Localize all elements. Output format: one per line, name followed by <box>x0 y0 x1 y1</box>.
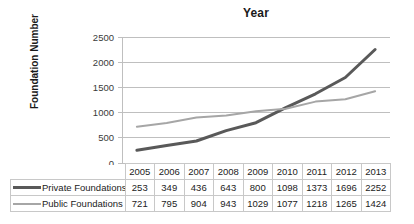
table-corner-cell <box>11 164 126 180</box>
line-chart-plot: 05001000150020002500 <box>0 0 414 165</box>
table-cell: 904 <box>184 196 214 212</box>
legend-label-1: Public Foundations <box>42 198 123 209</box>
column-header: 2010 <box>273 164 303 180</box>
data-table-wrapper: 200520062007200820092010201120122013Priv… <box>10 163 391 212</box>
gridlines <box>118 37 390 163</box>
legend-swatch-1 <box>13 203 41 205</box>
column-header: 2008 <box>214 164 244 180</box>
table-cell: 1218 <box>302 196 332 212</box>
table-cell: 1424 <box>361 196 391 212</box>
column-header: 2009 <box>243 164 273 180</box>
table-header-row: 200520062007200820092010201120122013 <box>11 164 391 180</box>
table-cell: 943 <box>214 196 244 212</box>
table-cell: 1696 <box>332 180 362 196</box>
table-cell: 721 <box>125 196 155 212</box>
y-tick-label: 1000 <box>93 107 114 118</box>
y-tick-label: 1500 <box>93 82 114 93</box>
column-header: 2006 <box>155 164 185 180</box>
data-table: 200520062007200820092010201120122013Priv… <box>10 163 391 212</box>
data-table-body: 200520062007200820092010201120122013Priv… <box>11 164 391 212</box>
table-cell: 1077 <box>273 196 303 212</box>
column-header: 2012 <box>332 164 362 180</box>
y-tick-labels: 05001000150020002500 <box>93 32 114 166</box>
table-cell: 800 <box>243 180 273 196</box>
series-lines <box>137 50 375 151</box>
column-header: 2011 <box>302 164 332 180</box>
column-header: 2013 <box>361 164 391 180</box>
table-cell: 643 <box>214 180 244 196</box>
table-cell: 1098 <box>273 180 303 196</box>
column-header: 2005 <box>125 164 155 180</box>
legend-entry: Public Foundations <box>11 196 126 212</box>
table-cell: 1373 <box>302 180 332 196</box>
y-tick-label: 2500 <box>93 32 114 43</box>
legend-label-0: Private Foundations <box>42 182 125 193</box>
legend-entry: Private Foundations <box>11 180 126 196</box>
table-row: Public Foundations7217959049431029107712… <box>11 196 391 212</box>
y-tick-label: 500 <box>98 132 114 143</box>
table-cell: 1265 <box>332 196 362 212</box>
y-tick-label: 2000 <box>93 57 114 68</box>
table-cell: 2252 <box>361 180 391 196</box>
table-cell: 253 <box>125 180 155 196</box>
table-cell: 349 <box>155 180 185 196</box>
table-cell: 795 <box>155 196 185 212</box>
column-header: 2007 <box>184 164 214 180</box>
chart-container: Year Foundation Number 05001000150020002… <box>0 0 414 224</box>
table-row: Private Foundations253349436643800109813… <box>11 180 391 196</box>
table-cell: 436 <box>184 180 214 196</box>
table-cell: 1029 <box>243 196 273 212</box>
legend-swatch-0 <box>13 186 41 189</box>
